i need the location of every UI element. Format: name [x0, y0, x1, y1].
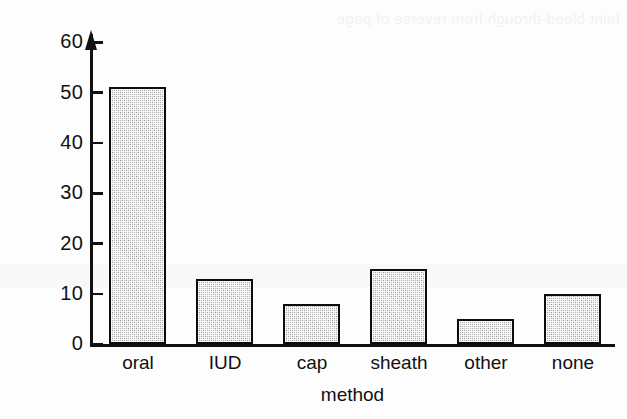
- y-tick-label: 30: [60, 181, 83, 204]
- x-tick-label-other: other: [446, 352, 526, 374]
- bar-slot: sheath: [359, 22, 439, 344]
- y-tick-label: 40: [60, 131, 83, 154]
- bar-oral[interactable]: [109, 87, 166, 344]
- bar-other[interactable]: [457, 319, 514, 344]
- bar-slot: other: [446, 22, 526, 344]
- x-tick-label-iud: IUD: [185, 352, 265, 374]
- bar-slot: none: [533, 22, 613, 344]
- bar-cap[interactable]: [283, 304, 340, 344]
- x-tick-label-none: none: [533, 352, 613, 374]
- y-tick-label: 10: [60, 282, 83, 305]
- y-tick-label: 50: [60, 81, 83, 104]
- bar-none[interactable]: [544, 294, 601, 344]
- x-tick-label-cap: cap: [272, 352, 352, 374]
- y-tick-label: 0: [72, 332, 83, 355]
- bar-slot: cap: [272, 22, 352, 344]
- bar-slot: IUD: [185, 22, 265, 344]
- plot-area: 6050403020100 % oralIUDcapsheathothernon…: [90, 22, 615, 346]
- x-tick-label-oral: oral: [98, 352, 178, 374]
- bar-sheath[interactable]: [370, 269, 427, 345]
- y-tick-label: 60: [60, 30, 83, 53]
- x-tick-label-sheath: sheath: [359, 352, 439, 374]
- bar-chart: 6050403020100 % oralIUDcapsheathothernon…: [0, 0, 627, 419]
- y-tick-label: 20: [60, 232, 83, 255]
- bars-group: oralIUDcapsheathothernone: [90, 22, 615, 346]
- x-axis-title: method: [90, 384, 615, 406]
- bar-iud[interactable]: [196, 279, 253, 344]
- bar-slot: oral: [98, 22, 178, 344]
